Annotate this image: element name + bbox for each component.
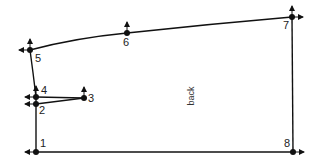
point-label: 4	[41, 84, 47, 96]
points: 12345678	[27, 14, 296, 155]
outline-lines	[36, 17, 293, 152]
point-marker-icon	[81, 95, 87, 101]
direction-arrows	[19, 6, 304, 152]
point-3: 3	[81, 92, 94, 104]
point-marker-icon	[33, 94, 39, 100]
point-label: 3	[88, 92, 94, 104]
piece-label-back: back	[186, 86, 196, 106]
point-label: 7	[283, 19, 289, 31]
outline-curves	[30, 17, 292, 97]
curve-5-7	[30, 17, 292, 50]
line-8-7	[292, 17, 293, 152]
point-marker-icon	[289, 14, 295, 20]
point-6: 6	[123, 30, 130, 48]
point-marker-icon	[290, 149, 296, 155]
point-2: 2	[33, 101, 45, 116]
point-marker-icon	[27, 47, 33, 53]
point-7: 7	[283, 14, 295, 31]
point-label: 8	[284, 137, 290, 149]
pattern-diagram: 12345678 back	[0, 0, 318, 166]
line-4-3	[36, 97, 84, 98]
point-label: 1	[40, 137, 46, 149]
point-label: 6	[123, 36, 129, 48]
point-label: 2	[39, 104, 45, 116]
point-marker-icon	[33, 149, 39, 155]
point-label: 5	[35, 52, 41, 64]
